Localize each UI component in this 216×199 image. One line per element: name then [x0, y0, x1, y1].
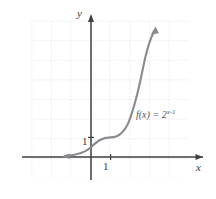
grid-lines	[31, 21, 188, 178]
y-axis-arrowhead	[88, 14, 94, 22]
y-axis-label: y	[77, 8, 82, 19]
function-equation-base: f(x) = 2	[136, 109, 167, 120]
exponential-function-graph-figure: y x 1 1 f(x) = 2x-1	[0, 0, 216, 199]
function-equation-exponent: x-1	[167, 108, 176, 116]
x-axis-arrowhead	[196, 154, 204, 160]
x-axis-tick-label-1: 1	[103, 161, 109, 172]
function-equation-label: f(x) = 2x-1	[136, 110, 176, 120]
x-axis-label: x	[196, 162, 201, 173]
y-axis-tick-label-1: 1	[82, 136, 88, 147]
